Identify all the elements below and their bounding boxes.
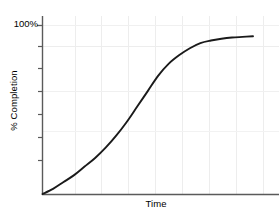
y-axis-title: % Completion — [8, 61, 19, 141]
horizontal-gridlines — [42, 26, 279, 132]
y-axis-top-tick-label: 100% — [4, 18, 38, 29]
y-axis-ticks — [37, 26, 43, 161]
x-axis-title: Time — [118, 198, 194, 209]
chart-container: 100% % Completion Time — [0, 0, 280, 219]
chart-plot-area — [0, 0, 280, 219]
completion-curve — [43, 36, 254, 194]
y-axis — [37, 16, 43, 195]
vertical-gridlines — [76, 16, 264, 194]
